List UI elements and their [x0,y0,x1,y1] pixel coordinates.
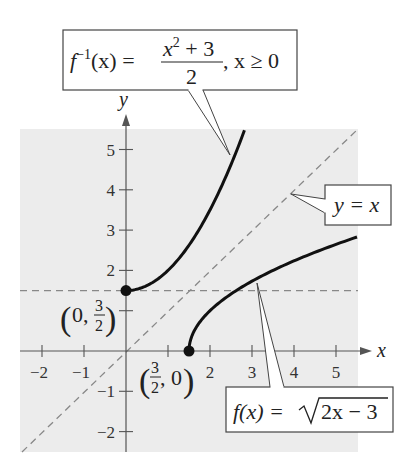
y-tick-label: 4 [107,181,116,200]
svg-text:2: 2 [151,379,159,396]
x-tick-label: 3 [248,363,257,382]
svg-text:2: 2 [95,317,103,334]
f-rad: 2x − 3 [321,399,377,424]
point-0-3half [121,285,132,296]
svg-text:0,: 0, [72,302,89,327]
x-tick-label: 4 [290,363,299,382]
finv-num-rest: + 3 [180,36,214,61]
y-axis-arrow-icon [122,114,130,126]
y-tick-label: 2 [107,261,116,280]
x-tick-label: −2 [30,363,48,382]
finv-cond: , x ≥ 0 [223,48,279,73]
svg-text:3: 3 [151,359,159,376]
y-tick-label: 3 [107,221,116,240]
svg-text:(: ( [139,362,150,400]
svg-text:): ) [183,362,194,400]
y-tick-label: 5 [107,141,116,160]
svg-text:f(x) =: f(x) = [233,399,284,424]
svg-text:, 0: , 0 [160,365,182,390]
f-lhs: f(x) = [233,399,284,424]
x-tick-label: 5 [332,363,341,382]
x-tick-label: −1 [72,363,90,382]
graph-canvas: −2−12345−2−12345 x y f−1(x) = x2 + 3 2 ,… [0,0,414,469]
y-axis-label: y [117,88,128,111]
svg-text:): ) [105,300,116,338]
svg-text:3: 3 [95,297,103,314]
finv-num-x: x [162,36,173,61]
point-3half-0 [184,346,195,357]
x-axis-label: x [376,339,386,361]
x-axis-arrow-icon [360,347,372,355]
y-tick-label: −1 [97,382,115,401]
finv-den: 2 [186,64,197,89]
y-tick-label: −2 [97,423,115,442]
x-tick-label: 2 [206,363,215,382]
svg-text:x2 + 3: x2 + 3 [162,35,214,61]
finv-sup: −1 [76,47,91,62]
finv-arg: (x) = [91,48,135,73]
finv-num-sup: 2 [173,35,180,50]
svg-text:(: ( [60,300,71,338]
yx-label: y = x [332,192,380,217]
